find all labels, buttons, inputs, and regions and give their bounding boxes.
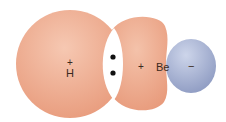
electron-dot (110, 54, 115, 59)
electron-dot (110, 70, 115, 75)
hydrogen-label: H (66, 68, 74, 79)
beryllium-label: Be (156, 62, 169, 73)
minus-sign: − (188, 61, 194, 72)
beryllium-plus-sign: + (138, 62, 144, 72)
